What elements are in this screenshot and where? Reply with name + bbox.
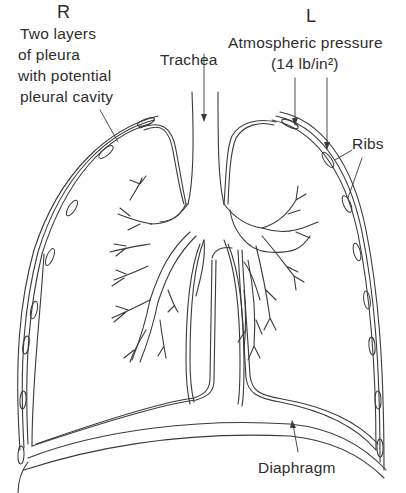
atmospheric-pressure-label: Atmospheric pressure xyxy=(228,33,383,53)
pleura-pointer xyxy=(100,110,118,142)
trachea-label: Trachea xyxy=(160,50,218,70)
pleura-label-line-4: pleural cavity xyxy=(20,87,113,107)
left-lung xyxy=(224,121,378,450)
bronchial-tree xyxy=(110,176,318,362)
trachea xyxy=(188,92,224,204)
pleura-label-line-2: of pleura xyxy=(18,45,80,65)
right-lung xyxy=(32,124,232,446)
pressure-value-label: (14 lb/in²) xyxy=(271,54,339,74)
diaphragm-pointer xyxy=(293,424,298,452)
thorax-diagram: R L Two layers of pleura with potential … xyxy=(0,0,406,493)
left-side-label: L xyxy=(306,6,316,26)
pleura-label-line-1: Two layers xyxy=(20,24,96,44)
pleura-label-line-3: with potential xyxy=(18,66,111,86)
right-side-label: R xyxy=(57,2,70,22)
ribs-label: Ribs xyxy=(352,134,384,154)
right-chest-wall xyxy=(18,116,158,464)
diaphragm-label: Diaphragm xyxy=(258,458,336,478)
